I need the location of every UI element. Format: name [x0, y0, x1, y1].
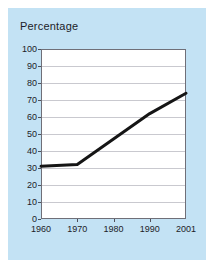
- y-axis-tick-label: 10: [11, 198, 37, 207]
- x-axis-tick-label: 2001: [171, 225, 201, 234]
- data-line-series: [41, 49, 186, 219]
- x-axis-tick-label: 1970: [62, 225, 92, 234]
- y-axis-tick-label: 90: [11, 62, 37, 71]
- chart-plot-area: 0102030405060708090100 19601970198019902…: [0, 0, 214, 268]
- y-axis-tick-label: 20: [11, 181, 37, 190]
- y-axis-tick-label: 70: [11, 96, 37, 105]
- y-axis-tick-label: 50: [11, 130, 37, 139]
- y-axis-tick-label: 40: [11, 147, 37, 156]
- y-axis-tick-label: 100: [11, 45, 37, 54]
- y-axis-tick-label: 80: [11, 79, 37, 88]
- x-axis-tick-label: 1960: [26, 225, 56, 234]
- data-line: [41, 93, 186, 166]
- y-axis-tick-label: 30: [11, 164, 37, 173]
- x-axis-tick-mark: [114, 219, 115, 222]
- x-axis-tick-label: 1980: [99, 225, 129, 234]
- y-axis-tick-label: 0: [11, 215, 37, 224]
- y-axis-tick-label: 60: [11, 113, 37, 122]
- x-axis-tick-mark: [77, 219, 78, 222]
- y-axis-tick-mark: [38, 219, 41, 220]
- x-axis-tick-label: 1990: [135, 225, 165, 234]
- x-axis-tick-mark: [150, 219, 151, 222]
